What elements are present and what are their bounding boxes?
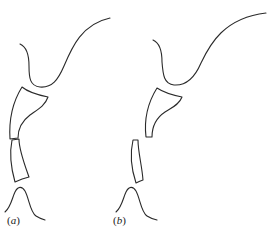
panel-b-label: (b) <box>113 215 126 226</box>
panel-a-label: (a) <box>7 215 20 226</box>
panel-a-lower-block <box>11 139 29 182</box>
label-close-paren: ) <box>122 214 126 226</box>
line-drawing-figure <box>0 0 271 243</box>
panel-a-top-curve <box>20 18 110 87</box>
panel-b-top-curve <box>153 13 266 85</box>
panel-a <box>5 18 110 220</box>
panel-b-lower-block <box>131 140 143 183</box>
label-close-paren: ) <box>16 214 20 226</box>
panel-b-upper-block <box>145 88 182 137</box>
panel-a-upper-block <box>10 87 48 139</box>
panel-b <box>116 13 266 220</box>
